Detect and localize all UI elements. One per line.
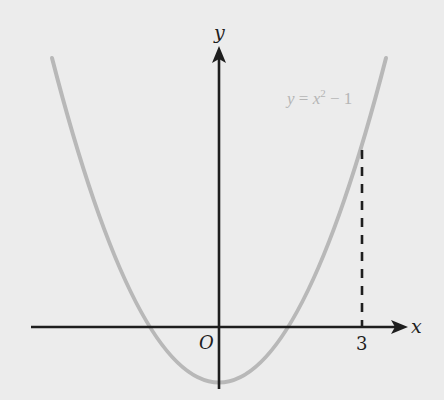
- graph-canvas: y x O 3 y = x2 − 1: [0, 0, 444, 400]
- y-axis-label: y: [213, 21, 225, 43]
- x-axis-label: x: [411, 315, 422, 337]
- x-tick-label-3: 3: [356, 333, 367, 354]
- origin-label: O: [199, 332, 214, 353]
- function-graph-figure: y x O 3 y = x2 − 1: [0, 0, 444, 400]
- equation-label: y = x2 − 1: [285, 87, 352, 108]
